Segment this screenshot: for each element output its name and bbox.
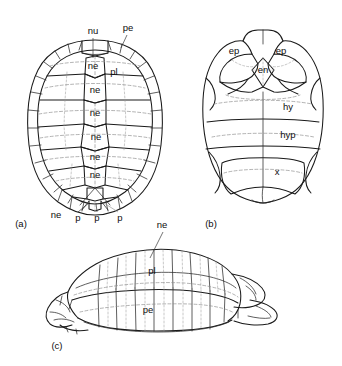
label-a-nu: nu	[88, 25, 99, 36]
leader-c-ne	[150, 232, 163, 258]
label-a-p2: p	[94, 212, 99, 223]
panel-marker-a: (a)	[15, 218, 27, 229]
panel-a-carapace: nu pe ne pl ne ne ne ne ne ne p p p	[28, 22, 163, 223]
label-a-ne7: ne	[51, 209, 62, 220]
label-a-ne4: ne	[91, 131, 102, 142]
panel-c-lateral: ne pl pe	[46, 219, 277, 334]
panel-b-plastron: ep ep en hy hyp x	[203, 30, 323, 203]
label-c-pl: pl	[148, 265, 155, 276]
label-a-ne6: ne	[90, 169, 101, 180]
panel-marker-c: (c)	[51, 340, 62, 351]
label-c-pe: pe	[143, 304, 154, 315]
label-b-en: en	[258, 64, 269, 75]
label-a-ne5: ne	[90, 151, 101, 162]
label-b-hy: hy	[283, 101, 293, 112]
label-a-ne1: ne	[88, 60, 99, 71]
label-b-hyp: hyp	[280, 129, 295, 140]
label-a-pe: pe	[123, 22, 134, 33]
label-b-ep-right: ep	[276, 45, 287, 56]
label-a-pl: pl	[110, 66, 117, 77]
label-b-ep-left: ep	[229, 45, 240, 56]
figure-turtle-shell-anatomy: nu pe ne pl ne ne ne ne ne ne p p p	[0, 0, 342, 366]
panel-marker-b: (b)	[205, 218, 217, 229]
label-c-ne: ne	[157, 219, 168, 230]
label-a-ne2: ne	[90, 84, 101, 95]
label-a-p3: p	[117, 212, 122, 223]
label-a-ne3: ne	[90, 107, 101, 118]
label-a-p1: p	[75, 212, 80, 223]
label-b-x: x	[275, 166, 280, 177]
